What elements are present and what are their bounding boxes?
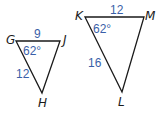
- vertex-label-j: J: [61, 33, 67, 47]
- side-km-length: 12: [110, 3, 124, 17]
- triangle-gjh: G J H 9 62° 12: [6, 27, 67, 110]
- vertex-label-k: K: [75, 9, 84, 23]
- side-gh-length: 12: [16, 67, 30, 81]
- vertex-label-l: L: [118, 95, 125, 109]
- vertex-label-m: M: [145, 9, 156, 23]
- angle-k-measure: 62°: [93, 22, 111, 36]
- vertex-label-g: G: [6, 33, 15, 47]
- side-kl-length: 16: [88, 56, 102, 70]
- similar-triangles-diagram: G J H 9 62° 12 K M L 12 62° 16: [0, 0, 165, 118]
- angle-g-measure: 62°: [23, 44, 41, 58]
- vertex-label-h: H: [38, 96, 47, 110]
- triangle-kml: K M L 12 62° 16: [75, 3, 156, 109]
- side-gj-length: 9: [34, 27, 41, 41]
